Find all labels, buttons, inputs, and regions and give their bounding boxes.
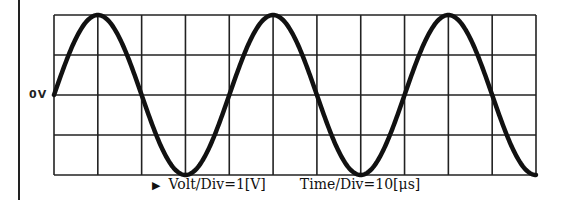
play-marker-icon: ▶	[152, 179, 160, 192]
oscilloscope-screen	[0, 0, 561, 200]
caption: ▶Volt/Div=1[V]Time/Div=10[μs]	[152, 176, 420, 192]
time-div-label: Time/Div=10[μs]	[300, 176, 420, 192]
volt-div-label: Volt/Div=1[V]	[168, 176, 265, 192]
